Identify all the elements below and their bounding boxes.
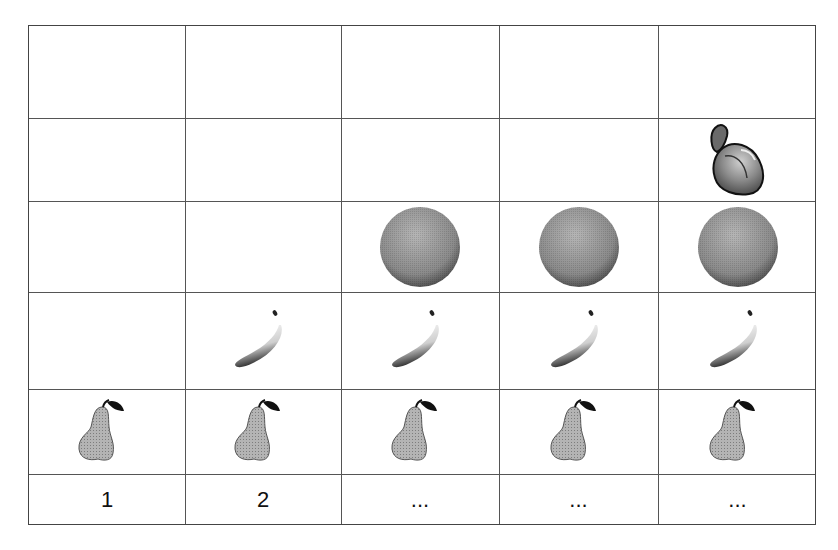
pear-cell [658,389,817,474]
banana-icon [380,301,460,381]
fruit-grid: 12......... [28,25,816,525]
pear-cell [185,389,341,474]
pear-cell [499,389,658,474]
pear-cell [341,389,499,474]
pear-cell [29,389,185,474]
pear-icon [703,397,773,467]
pear-icon [544,397,614,467]
orange-icon [537,205,621,289]
banana-icon [223,301,303,381]
banana-cell [658,292,817,389]
banana-cell [341,292,499,389]
banana-icon [539,301,619,381]
pear-icon [385,397,455,467]
orange-icon [378,205,462,289]
banana-cell [185,292,341,389]
column-label: ... [499,474,658,526]
banana-icon [698,301,778,381]
peach-icon [703,120,773,200]
column-label: ... [341,474,499,526]
banana-cell [499,292,658,389]
orange-cell [658,201,817,292]
pear-icon [72,397,142,467]
orange-cell [341,201,499,292]
orange-icon [696,205,780,289]
peach-cell [658,118,817,201]
orange-cell [499,201,658,292]
column-label: 2 [185,474,341,526]
column-label: ... [658,474,817,526]
column-label: 1 [29,474,185,526]
pear-icon [228,397,298,467]
